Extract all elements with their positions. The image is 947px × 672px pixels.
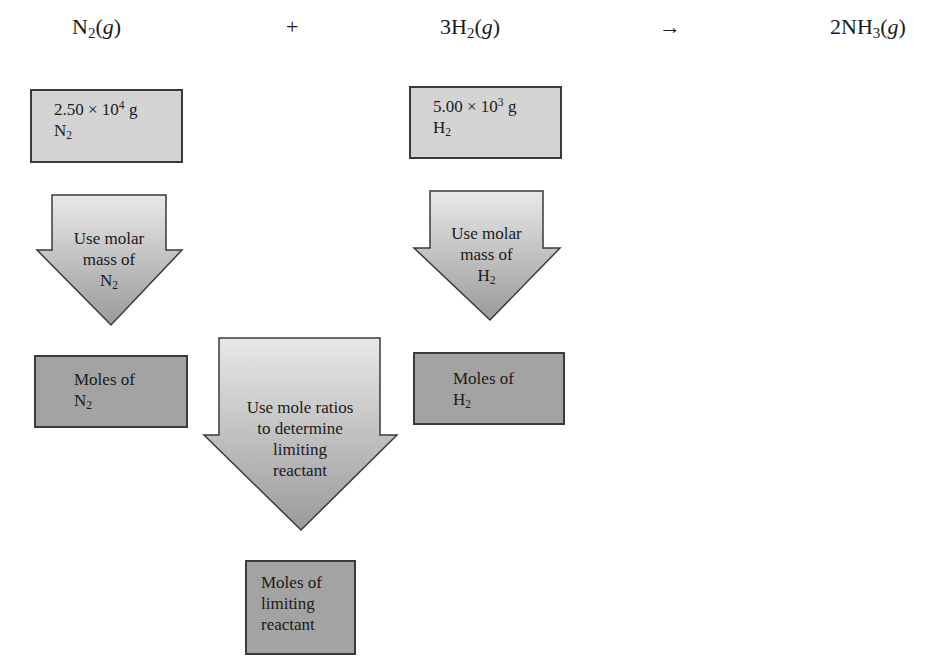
label-line: limiting (210, 439, 390, 460)
label-line: Moles of (261, 572, 354, 593)
mole-ratio-step-label: Use mole ratios to determine limiting re… (210, 397, 390, 481)
label-line: Use mole ratios (210, 397, 390, 418)
label-line: to determine (210, 418, 390, 439)
label-line: reactant (261, 614, 354, 635)
down-arrow-mole-ratio-icon (0, 0, 947, 672)
limiting-reactant-moles-box: Moles of limiting reactant (245, 560, 356, 655)
label-line: reactant (210, 460, 390, 481)
label-line: limiting (261, 593, 354, 614)
